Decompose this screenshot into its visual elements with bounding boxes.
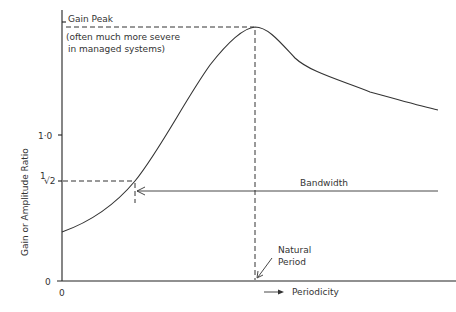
svg-text:√2: √2 (44, 176, 55, 186)
bandwidth-label: Bandwidth (300, 178, 348, 188)
gain-peak-title: Gain Peak (68, 14, 114, 24)
natural-period-line2: Period (278, 257, 306, 267)
y-axis-label: Gain or Amplitude Ratio (20, 148, 30, 256)
tick-label-half-root: 1 √2 (40, 171, 55, 186)
tick-label-zero-x: 0 (59, 288, 65, 298)
tick-label-zero-y: 0 (45, 277, 51, 287)
periodicity-arrowhead-icon (278, 290, 284, 295)
natural-period-pointer (258, 258, 272, 277)
natural-period-line1: Natural (278, 245, 311, 255)
gain-peak-note-line2: in managed systems) (68, 44, 165, 54)
x-axis-label: Periodicity (292, 287, 340, 297)
response-curve (62, 27, 438, 232)
gain-diagram: 1·0 1 √2 0 0 Gain or Amplitude Ratio Ban… (0, 0, 456, 312)
gain-peak-note-line1: (often much more severe (66, 32, 180, 42)
tick-label-one: 1·0 (38, 131, 53, 141)
